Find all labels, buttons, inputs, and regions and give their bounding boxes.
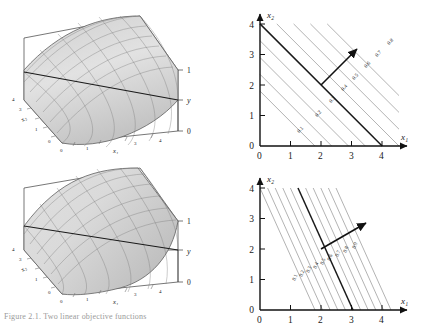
surface-top-x1-label: x₁ xyxy=(112,147,118,154)
x1-tick-3: 3 xyxy=(134,292,137,297)
x-tick-1: 1 xyxy=(288,151,293,161)
contour-label-1: 0.2 xyxy=(313,109,322,118)
contour-label-2: 0.3 xyxy=(327,95,336,104)
y-tick-2: 2 xyxy=(249,245,254,255)
x-axis-label: x₁ xyxy=(400,296,408,306)
y-tick-labels: 0 1 2 3 4 xyxy=(249,184,254,316)
surface-bottom-svg: 1 y 0 x₁ 0 1 3 4 x₂ xyxy=(0,164,211,329)
x2-tick-0: 0 xyxy=(48,139,51,144)
surface-mesh-bottom xyxy=(24,168,178,295)
x1-tick-0: 0 xyxy=(60,299,63,304)
surface-bottom-x1-label: x₁ xyxy=(112,298,118,305)
panel-contour-bottom: 0.1 0.2 0.3 0.4 0.5 0.6 0.7 0.8 0.9 xyxy=(211,164,422,329)
surface-bottom-ylabel-0: 0 xyxy=(187,278,191,287)
contour-label-7: 0.8 xyxy=(385,37,394,46)
x-tick-1: 1 xyxy=(288,315,293,325)
x-tick-3: 3 xyxy=(349,151,354,161)
x2-tick-0: 0 xyxy=(48,290,51,295)
y-tick-4: 4 xyxy=(249,184,254,194)
x1-tick-0: 0 xyxy=(60,148,63,153)
contour-label-0: 0.1 xyxy=(295,125,304,134)
x-axis-label: x₁ xyxy=(400,132,408,142)
gradient-arrow xyxy=(321,49,357,85)
y-tick-3: 3 xyxy=(249,50,254,60)
x2-tick-4: 4 xyxy=(12,97,15,102)
x2-tick-4: 4 xyxy=(12,247,15,252)
contour-label-8: 0.9 xyxy=(350,241,358,250)
contour-label-7: 0.8 xyxy=(341,245,349,254)
x-tick-0: 0 xyxy=(257,315,262,325)
contour-label-6: 0.7 xyxy=(373,49,382,58)
panel-surface-top: 1 y 0 x₁ 0 1 3 4 xyxy=(0,0,211,165)
x-tick-labels: 0 1 2 3 4 xyxy=(257,315,384,325)
surface-bottom-x2-label: x₂ xyxy=(18,264,28,274)
y-tick-0: 0 xyxy=(249,141,254,151)
x-tick-2: 2 xyxy=(318,315,323,325)
surface-top-ylabel-y: y xyxy=(186,96,191,105)
contour-label-5: 0.6 xyxy=(325,253,333,262)
y-tick-0: 0 xyxy=(249,305,254,315)
x1-tick-1: 1 xyxy=(86,297,89,302)
surface-top-ylabel-0: 0 xyxy=(187,127,191,136)
x1-tick-3: 3 xyxy=(134,141,137,146)
contour-label-4: 0.5 xyxy=(350,72,359,81)
x-tick-4: 4 xyxy=(379,315,384,325)
y-axis-label: x₂ xyxy=(266,174,274,184)
y-tick-3: 3 xyxy=(249,214,254,224)
y-tick-labels: 0 1 2 3 4 xyxy=(249,20,254,152)
y-axis-ticks xyxy=(178,70,183,131)
contour-label-6: 0.7 xyxy=(333,249,341,258)
x2-tick-1: 1 xyxy=(35,127,38,132)
y-tick-1: 1 xyxy=(249,275,254,285)
x2-tick-3: 3 xyxy=(19,257,22,262)
x-tick-4: 4 xyxy=(379,151,384,161)
y-axis-label: x₂ xyxy=(266,10,274,20)
figure-caption: Figure 2.1. Two linear objective functio… xyxy=(4,312,147,321)
x1-tick-1: 1 xyxy=(86,146,89,151)
panel-contour-top: 0.1 0.2 0.3 0.4 0.5 0.6 0.7 0.8 xyxy=(211,0,422,165)
x-tick-0: 0 xyxy=(257,151,262,161)
surface-bottom-ylabel-y: y xyxy=(186,247,191,256)
x2-tick-1: 1 xyxy=(35,277,38,282)
y-tick-2: 2 xyxy=(249,81,254,91)
contour-lines xyxy=(260,24,399,146)
surface-top-ylabel-1: 1 xyxy=(187,66,191,75)
x1-tick-4: 4 xyxy=(159,289,162,294)
surface-bottom-ylabel-1: 1 xyxy=(187,217,191,226)
x-tick-2: 2 xyxy=(318,151,323,161)
x-tick-3: 3 xyxy=(349,315,354,325)
y-tick-4: 4 xyxy=(249,20,254,30)
surface-top-x2-label: x₂ xyxy=(18,114,28,124)
y-axis-ticks xyxy=(178,221,183,282)
figure-container: 1 y 0 x₁ 0 1 3 4 xyxy=(0,0,422,329)
contour-top-svg: 0.1 0.2 0.3 0.4 0.5 0.6 0.7 0.8 xyxy=(211,0,422,165)
contour-label-3: 0.4 xyxy=(339,83,348,92)
contour-bottom-svg: 0.1 0.2 0.3 0.4 0.5 0.6 0.7 0.8 0.9 xyxy=(211,164,422,329)
x1-tick-4: 4 xyxy=(159,138,162,143)
x2-tick-3: 3 xyxy=(19,107,22,112)
x-tick-labels: 0 1 2 3 4 xyxy=(257,151,384,161)
y-tick-1: 1 xyxy=(249,111,254,121)
contour-labels: 0.1 0.2 0.3 0.4 0.5 0.6 0.7 0.8 xyxy=(295,37,394,134)
panel-surface-bottom: 1 y 0 x₁ 0 1 3 4 x₂ xyxy=(0,164,211,329)
surface-top-svg: 1 y 0 x₁ 0 1 3 4 xyxy=(0,0,211,165)
